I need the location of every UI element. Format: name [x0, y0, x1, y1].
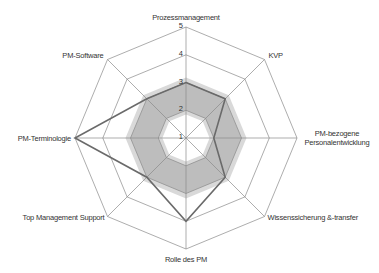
grid — [75, 27, 297, 249]
tick-label: 2 — [179, 104, 183, 113]
category-label: Wissenssicherung &-transfer — [268, 213, 359, 222]
category-label: KVP — [269, 51, 284, 60]
radar-chart: 12345 ProzessmanagementKVPPM-bezogenePer… — [0, 0, 379, 273]
category-label: PM-Software — [62, 51, 103, 60]
tick-label: 3 — [179, 77, 183, 86]
category-label: PM-bezogenePersonalentwicklung — [305, 129, 370, 147]
tick-label: 5 — [179, 21, 183, 30]
tick-label: 4 — [179, 49, 183, 58]
category-label: Top Management Support — [23, 213, 106, 222]
category-label: PM-Terminologie — [18, 134, 71, 143]
tick-label: 1 — [179, 132, 183, 141]
category-label: Prozessmanagement — [152, 13, 221, 22]
category-label: Rolle des PM — [165, 255, 207, 264]
